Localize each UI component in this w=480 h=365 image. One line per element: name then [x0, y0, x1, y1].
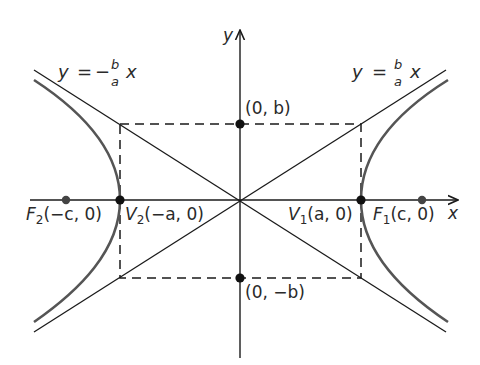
focus-f2-point [62, 196, 70, 204]
svg-text:x: x [125, 61, 137, 82]
svg-text:V2(−a, 0): V2(−a, 0) [125, 204, 204, 227]
svg-text:y: y [351, 61, 363, 82]
left-asymptote-equation: y = − b a x [57, 57, 137, 89]
co-vertex-b1-label: (0, b) [245, 98, 291, 118]
y-axis-label: y [222, 25, 234, 45]
focus-f1-label: F1(c, 0) [373, 204, 435, 227]
svg-text:y: y [57, 61, 69, 82]
svg-text:F2(−c, 0): F2(−c, 0) [26, 204, 102, 227]
co-vertex-b2-point [235, 273, 244, 282]
focus-f2-label: F2(−c, 0) [26, 204, 102, 227]
svg-text:=: = [372, 61, 387, 82]
svg-text:b: b [111, 57, 119, 72]
x-axis-label: x [447, 203, 459, 223]
svg-text:a: a [394, 74, 402, 89]
hyperbola-diagram: y x y = − b a x y = b a x F2(−c, 0) V2(−… [0, 0, 480, 365]
vertex-v1-point [356, 195, 365, 204]
co-vertex-b1-point [235, 119, 244, 128]
svg-text:b: b [394, 57, 402, 72]
vertex-v1-label: V1(a, 0) [288, 204, 353, 227]
focus-f1-point [418, 196, 426, 204]
right-asymptote-equation: y = b a x [351, 57, 421, 89]
svg-text:a: a [111, 74, 119, 89]
svg-text:x: x [409, 61, 421, 82]
co-vertex-b2-label: (0, −b) [245, 282, 305, 302]
svg-text:=: = [77, 61, 92, 82]
svg-text:F1(c, 0): F1(c, 0) [373, 204, 435, 227]
svg-text:−: − [95, 61, 110, 82]
svg-text:V1(a, 0): V1(a, 0) [288, 204, 353, 227]
vertex-v2-label: V2(−a, 0) [125, 204, 204, 227]
vertex-v2-point [115, 195, 124, 204]
